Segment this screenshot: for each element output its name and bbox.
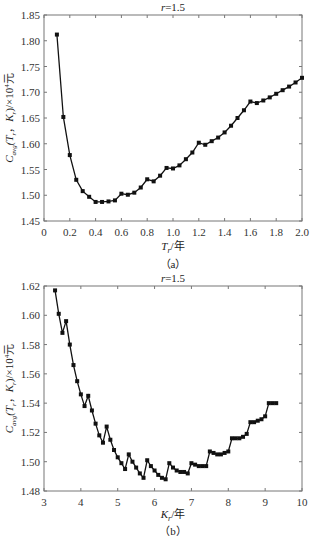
data-point-marker [139, 186, 143, 190]
data-point-marker [68, 153, 72, 157]
data-point-marker [74, 178, 78, 182]
x-tick-label: 0.2 [63, 226, 77, 238]
data-point-marker [158, 174, 162, 178]
data-point-marker [113, 198, 117, 202]
data-point-marker [216, 136, 220, 140]
data-point-marker [252, 420, 256, 424]
chart-a: 00.20.40.60.81.01.21.41.61.82.01.451.501… [3, 1, 309, 270]
data-point-marker [105, 425, 109, 429]
data-point-marker [101, 441, 105, 445]
data-point-marker [108, 438, 112, 442]
data-point-marker [226, 449, 230, 453]
y-axis-label: Cavg(Tr，Kr)/×104元 [3, 73, 18, 162]
data-point-marker [61, 115, 65, 119]
data-point-marker [119, 461, 123, 465]
data-point-marker [178, 470, 182, 474]
x-tick-label: 0.8 [140, 226, 154, 238]
data-point-marker [234, 436, 238, 440]
data-point-marker [263, 414, 267, 418]
data-point-marker [116, 455, 120, 459]
data-point-marker [242, 108, 246, 112]
x-tick-label: 1.4 [218, 226, 232, 238]
x-tick-label: 9 [262, 496, 268, 508]
x-tick-label: 2.0 [295, 226, 309, 238]
data-point-marker [203, 143, 207, 147]
data-line [55, 290, 276, 479]
data-point-marker [164, 477, 168, 481]
data-point-marker [53, 288, 57, 292]
data-point-marker [184, 157, 188, 161]
y-tick-label: 1.60 [21, 309, 41, 321]
y-tick-label: 1.65 [21, 112, 41, 124]
data-point-marker [230, 436, 234, 440]
data-point-marker [241, 435, 245, 439]
data-point-marker [256, 419, 260, 423]
data-point-marker [261, 98, 265, 102]
data-point-marker [79, 392, 83, 396]
data-point-marker [127, 452, 131, 456]
y-tick-label: 1.80 [21, 35, 41, 47]
y-tick-label: 1.50 [21, 189, 41, 201]
x-tick-label: 1.6 [244, 226, 258, 238]
data-point-marker [219, 452, 223, 456]
data-point-marker [237, 436, 241, 440]
data-point-marker [167, 461, 171, 465]
x-tick-label: 6 [152, 496, 158, 508]
data-point-marker [138, 471, 142, 475]
data-point-marker [215, 452, 219, 456]
data-point-marker [287, 85, 291, 89]
data-point-marker [189, 461, 193, 465]
y-tick-label: 1.54 [21, 397, 41, 409]
chart-b: 3456789101.481.501.521.541.561.581.601.6… [3, 272, 308, 537]
data-point-marker [87, 195, 91, 199]
data-point-marker [60, 331, 64, 335]
data-line [57, 35, 302, 202]
data-point-marker [145, 177, 149, 181]
data-point-marker [274, 401, 278, 405]
data-point-marker [248, 100, 252, 104]
data-point-marker [294, 80, 298, 84]
x-axis-label: Tr/年 [161, 239, 184, 255]
data-point-marker [153, 469, 157, 473]
x-tick-label: 0.6 [115, 226, 129, 238]
data-point-marker [134, 466, 138, 470]
x-tick-label: 8 [226, 496, 232, 508]
data-point-marker [81, 189, 85, 193]
data-point-marker [197, 464, 201, 468]
data-point-marker [204, 464, 208, 468]
x-tick-label: 1.8 [269, 226, 283, 238]
data-point-marker [71, 363, 75, 367]
y-tick-label: 1.70 [21, 86, 41, 98]
data-point-marker [190, 151, 194, 155]
x-tick-label: 0.4 [89, 226, 103, 238]
data-point-marker [200, 464, 204, 468]
data-point-marker [268, 95, 272, 99]
x-tick-label: 3 [41, 496, 47, 508]
data-point-marker [68, 343, 72, 347]
data-point-marker [193, 463, 197, 467]
y-axis-label: Cavg(Tr，Kr)/×104元 [3, 344, 18, 433]
y-tick-label: 1.75 [21, 61, 41, 73]
data-point-marker [248, 420, 252, 424]
data-point-marker [100, 200, 104, 204]
data-point-marker [97, 433, 101, 437]
y-tick-label: 1.56 [21, 368, 41, 380]
data-point-marker [182, 470, 186, 474]
data-point-marker [236, 116, 240, 120]
data-point-marker [119, 192, 123, 196]
data-point-marker [271, 401, 275, 405]
data-point-marker [57, 312, 61, 316]
y-tick-label: 1.58 [21, 339, 41, 351]
data-point-marker [145, 458, 149, 462]
data-point-marker [107, 199, 111, 203]
data-point-marker [90, 408, 94, 412]
x-tick-label: 0 [41, 226, 47, 238]
chart-title: r=1.5 [161, 272, 186, 284]
data-point-marker [165, 166, 169, 170]
data-point-marker [281, 88, 285, 92]
data-point-marker [171, 466, 175, 470]
data-point-marker [94, 422, 98, 426]
y-tick-label: 1.60 [21, 138, 41, 150]
data-point-marker [274, 92, 278, 96]
data-point-marker [177, 163, 181, 167]
